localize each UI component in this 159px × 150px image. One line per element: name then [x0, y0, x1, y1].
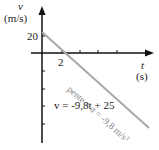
- equation-annotation: v = -9,8t + 25: [54, 100, 114, 111]
- x-axis-arrow-icon: [145, 50, 154, 57]
- x-tick-label-2: 2: [58, 57, 64, 68]
- y-axis-unit: (m/s): [4, 13, 27, 24]
- y-axis-variable: v: [18, 1, 23, 12]
- x-axis-unit: (s): [136, 71, 148, 82]
- y-axis-arrow-icon: [39, 6, 46, 15]
- y-tick-label-20: 20: [27, 31, 38, 42]
